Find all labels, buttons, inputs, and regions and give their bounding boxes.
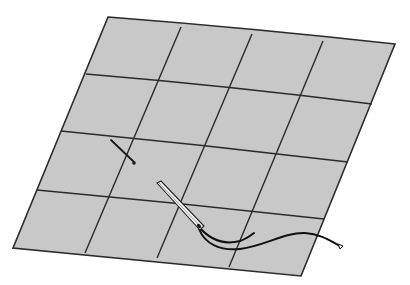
sewing-diagram xyxy=(0,0,410,285)
thread-end-arrow-icon xyxy=(338,244,343,249)
